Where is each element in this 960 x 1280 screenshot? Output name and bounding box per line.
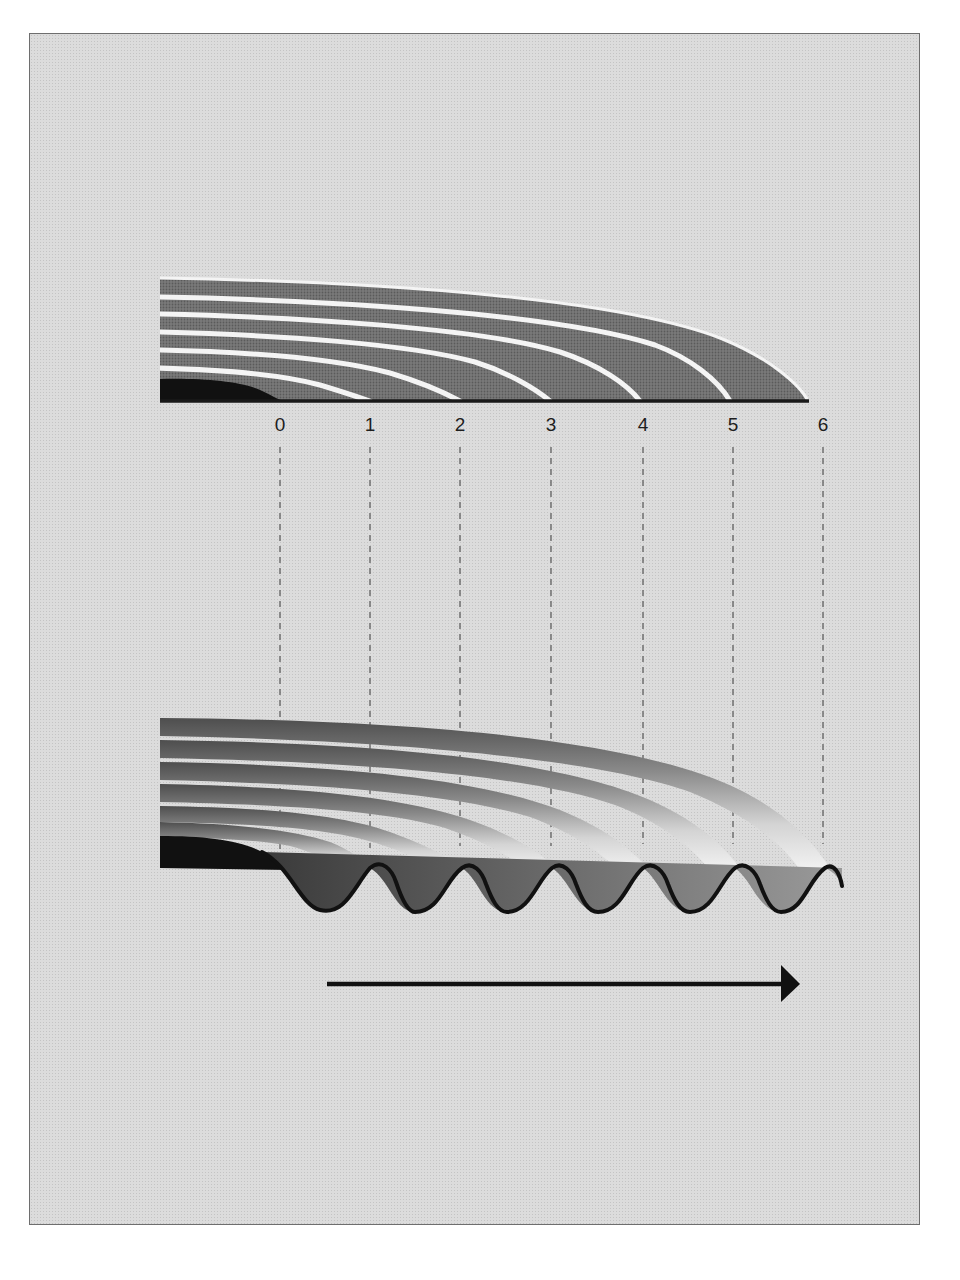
- diagram-canvas: 0 1 2 3 4 5 6: [0, 0, 960, 1280]
- position-label-0: 0: [275, 414, 286, 435]
- corrugated-layers: [160, 718, 830, 870]
- position-label-2: 2: [455, 414, 466, 435]
- flat-sheet-body: [160, 278, 808, 401]
- position-label-5: 5: [728, 414, 739, 435]
- position-label-4: 4: [638, 414, 649, 435]
- corrugated-sheet-figure: [160, 718, 842, 912]
- position-label-1: 1: [365, 414, 376, 435]
- arrow-right-icon: [781, 965, 800, 1002]
- corrugation-cups: [262, 852, 842, 912]
- flat-sheet-figure: [155, 278, 809, 401]
- position-label-6: 6: [818, 414, 829, 435]
- position-labels: 0 1 2 3 4 5 6: [275, 414, 829, 435]
- direction-arrow: [327, 965, 800, 1002]
- position-label-3: 3: [546, 414, 557, 435]
